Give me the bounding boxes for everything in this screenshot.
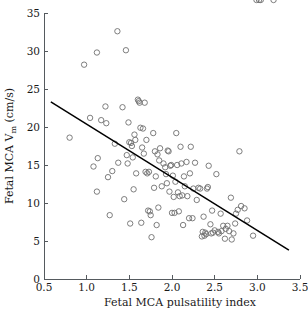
data-point xyxy=(139,145,144,150)
y-tick-label: 0 xyxy=(33,273,40,285)
y-tick-label: 20 xyxy=(27,121,40,133)
data-point xyxy=(209,208,214,213)
data-point xyxy=(87,115,92,120)
data-point xyxy=(91,164,96,169)
x-tick-label: 1.0 xyxy=(78,281,95,293)
data-point xyxy=(131,187,136,192)
data-point xyxy=(151,130,156,135)
x-axis-title: Fetal MCA pulsatility index xyxy=(104,296,257,309)
data-point xyxy=(125,161,130,166)
data-point xyxy=(190,216,195,221)
data-point xyxy=(148,212,153,217)
data-point xyxy=(94,50,99,55)
data-point xyxy=(250,233,255,238)
data-point xyxy=(94,189,99,194)
x-tick-label: 1.5 xyxy=(121,281,138,293)
data-point xyxy=(187,171,192,176)
data-point xyxy=(123,48,128,53)
data-point xyxy=(185,193,190,198)
data-point xyxy=(271,0,276,3)
data-point xyxy=(218,211,223,216)
y-tick-label: 10 xyxy=(27,197,40,209)
data-point xyxy=(95,155,100,160)
data-point xyxy=(228,195,233,200)
data-point xyxy=(103,104,108,109)
data-point xyxy=(201,214,206,219)
axes-group xyxy=(44,13,300,279)
x-tick-label: 3.0 xyxy=(249,281,266,293)
data-point xyxy=(141,151,146,156)
data-point xyxy=(157,146,162,151)
data-point xyxy=(124,152,129,157)
data-point xyxy=(208,222,213,227)
y-axis-ticks: 05101520253035 xyxy=(27,7,48,285)
data-point xyxy=(206,163,211,168)
data-point xyxy=(132,132,137,137)
data-point xyxy=(67,135,72,140)
data-point xyxy=(115,29,120,34)
data-point xyxy=(130,155,135,160)
y-axis-title: Fetal MCA Vm (cm/s) xyxy=(3,88,18,204)
data-point xyxy=(197,186,202,191)
data-point xyxy=(180,222,185,227)
data-point xyxy=(174,130,179,135)
x-tick-label: 2.5 xyxy=(206,281,223,293)
data-point xyxy=(167,189,172,194)
data-point xyxy=(188,144,193,149)
data-point xyxy=(229,237,234,242)
data-point xyxy=(110,168,115,173)
y-axis-title-main: Fetal MCA V xyxy=(3,132,16,204)
data-point xyxy=(126,120,131,125)
data-point xyxy=(142,100,147,105)
data-point xyxy=(120,105,125,110)
data-point xyxy=(104,121,109,126)
data-point xyxy=(139,220,144,225)
data-point xyxy=(133,137,138,142)
data-points-group xyxy=(67,0,276,242)
y-tick-label: 25 xyxy=(27,83,40,95)
data-point xyxy=(184,159,189,164)
y-tick-label: 35 xyxy=(27,7,40,19)
data-point xyxy=(178,144,183,149)
data-point xyxy=(149,235,154,240)
data-point xyxy=(194,197,199,202)
data-point xyxy=(171,194,176,199)
data-point xyxy=(214,171,219,176)
data-point xyxy=(133,171,138,176)
data-point xyxy=(156,205,161,210)
data-point xyxy=(144,137,149,142)
data-point xyxy=(237,149,242,154)
x-tick-label: 3.5 xyxy=(292,281,308,293)
data-point xyxy=(127,221,132,226)
data-point xyxy=(98,117,103,122)
x-tick-label: 2.0 xyxy=(164,281,181,293)
data-point xyxy=(116,160,121,165)
data-point xyxy=(192,160,197,165)
data-point xyxy=(154,222,159,227)
chart-canvas: 0.51.01.52.02.53.03.5 05101520253035 Fet… xyxy=(0,0,308,319)
y-tick-label: 30 xyxy=(27,45,40,57)
regression-fit-line xyxy=(51,102,289,250)
y-axis-title-group: Fetal MCA Vm (cm/s) xyxy=(3,88,18,204)
data-point xyxy=(81,62,86,67)
data-point xyxy=(153,174,158,179)
data-point xyxy=(151,185,156,190)
scatter-plot-figure: 0.51.01.52.02.53.03.5 05101520253035 Fet… xyxy=(0,0,308,319)
data-point xyxy=(129,143,134,148)
data-point xyxy=(107,212,112,217)
data-point xyxy=(222,236,227,241)
data-point xyxy=(159,184,164,189)
data-point xyxy=(122,197,127,202)
y-tick-label: 5 xyxy=(33,235,40,247)
y-axis-title-units: (cm/s) xyxy=(3,88,16,126)
data-point xyxy=(181,174,186,179)
data-point xyxy=(232,221,237,226)
data-point xyxy=(164,181,169,186)
data-point xyxy=(105,174,110,179)
y-tick-label: 15 xyxy=(27,159,40,171)
x-axis-ticks: 0.51.01.52.02.53.03.5 xyxy=(36,275,308,293)
data-point xyxy=(231,231,236,236)
